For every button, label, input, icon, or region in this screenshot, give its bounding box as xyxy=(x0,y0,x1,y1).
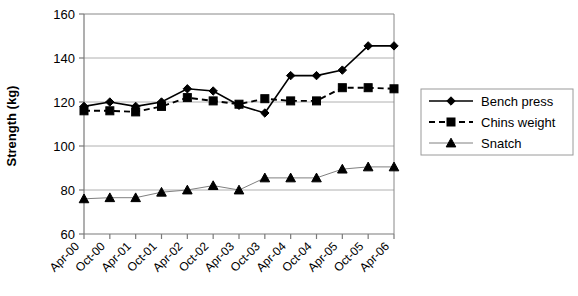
y-axis-tick-labels: 1601401201008060 xyxy=(53,7,75,242)
y-axis-tick-label: 60 xyxy=(61,227,75,242)
strength-progress-chart: 1601401201008060 Apr-00Oct-00Apr-01Oct-0… xyxy=(0,0,578,296)
x-axis-ticks xyxy=(84,234,394,239)
data-point-marker xyxy=(447,118,455,126)
y-axis-title: Strength (kg) xyxy=(4,86,19,167)
y-axis-tick-label: 100 xyxy=(53,139,75,154)
data-point-marker xyxy=(390,85,398,93)
legend-label: Snatch xyxy=(481,136,521,151)
data-point-marker xyxy=(80,107,88,115)
legend-label: Chins weight xyxy=(481,115,556,130)
data-point-marker xyxy=(261,95,269,103)
data-point-marker xyxy=(132,108,140,116)
data-point-marker xyxy=(364,84,372,92)
chart-legend: Bench pressChins weightSnatch xyxy=(421,89,573,155)
data-point-marker xyxy=(183,94,191,102)
data-point-marker xyxy=(338,84,346,92)
data-point-marker xyxy=(235,100,243,108)
y-axis-tick-label: 140 xyxy=(53,51,75,66)
x-axis-tick-labels: Apr-00Oct-00Apr-01Oct-01Apr-02Oct-02Apr-… xyxy=(47,239,393,275)
plot-background xyxy=(84,14,394,234)
y-axis-tick-label: 120 xyxy=(53,95,75,110)
data-point-marker xyxy=(313,97,321,105)
chart-canvas: 1601401201008060 Apr-00Oct-00Apr-01Oct-0… xyxy=(0,0,578,296)
y-axis-tick-label: 80 xyxy=(61,183,75,198)
data-point-marker xyxy=(287,97,295,105)
x-axis-tick-label: Apr-06 xyxy=(357,239,393,275)
data-point-marker xyxy=(209,97,217,105)
data-point-marker xyxy=(106,107,114,115)
legend-label: Bench press xyxy=(481,94,554,109)
y-axis-tick-label: 160 xyxy=(53,7,75,22)
data-point-marker xyxy=(158,102,166,110)
